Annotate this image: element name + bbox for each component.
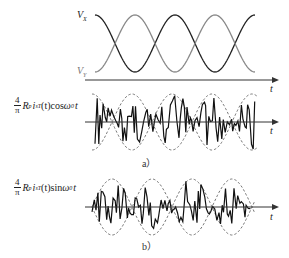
- vy-curve: [95, 15, 255, 72]
- top-axis-t-label: t: [270, 84, 273, 94]
- formula-b: 4 π Rp isT (t) sin ω0 t: [14, 178, 76, 197]
- caption-a: a）: [142, 155, 156, 170]
- coef-fraction-a: 4 π: [14, 96, 21, 115]
- vx-label: VX: [77, 10, 87, 22]
- vx-curve: [95, 15, 255, 72]
- coef-fraction-b: 4 π: [14, 178, 21, 197]
- axis-t-label-b: t: [270, 212, 273, 222]
- axis-t-label-a: t: [270, 126, 273, 136]
- caption-b: b）: [142, 238, 157, 253]
- vy-label: VY: [77, 66, 86, 78]
- top-time-axis: [85, 77, 279, 83]
- diagram-canvas: [0, 0, 289, 258]
- formula-a: 4 π Rp isT (t) cos ω0 t: [14, 96, 78, 115]
